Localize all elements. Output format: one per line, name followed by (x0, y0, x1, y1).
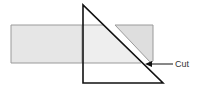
cut-label: Cut (175, 59, 190, 69)
cut-diagram: Cut (0, 0, 204, 91)
board-left-piece (11, 25, 82, 63)
